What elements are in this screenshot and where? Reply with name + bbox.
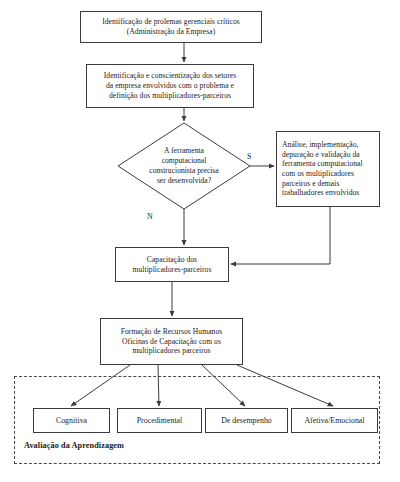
node-training-label: Capacitação dos multiplicadores-parceiro… xyxy=(133,255,212,274)
node-decision[interactable]: A ferramenta computacional construcionis… xyxy=(118,123,250,209)
edge-label-no: N xyxy=(147,212,153,221)
node-decision-label: A ferramenta computacional construcionis… xyxy=(130,146,238,185)
node-performance[interactable]: De desempenho xyxy=(205,408,288,433)
evaluation-group-caption: Avaliação da Aprendizagem xyxy=(24,441,124,450)
node-cognitive[interactable]: Cognitiva xyxy=(33,408,110,433)
node-affective-label: Afetiva/Emocional xyxy=(304,416,364,426)
edge-label-yes: S xyxy=(247,152,251,161)
node-tool-development-label: Análise, implementação, depuração e vali… xyxy=(282,140,363,198)
node-problem-identification-label: Identificação de prolemas gerenciais crí… xyxy=(102,17,240,36)
flowchart-canvas: Identificação de prolemas gerenciais crí… xyxy=(0,0,400,482)
node-tool-development[interactable]: Análise, implementação, depuração e vali… xyxy=(276,131,380,207)
connector-tool-to-training xyxy=(231,207,330,264)
node-problem-identification[interactable]: Identificação de prolemas gerenciais crí… xyxy=(80,11,262,43)
node-training[interactable]: Capacitação dos multiplicadores-parceiro… xyxy=(115,247,229,282)
node-human-resources-label: Formação de Recursos Humanos Oficinas de… xyxy=(121,327,223,356)
node-awareness[interactable]: Identificação e conscientização dos seto… xyxy=(86,64,254,108)
node-cognitive-label: Cognitiva xyxy=(56,416,87,426)
node-performance-label: De desempenho xyxy=(221,416,272,426)
node-human-resources[interactable]: Formação de Recursos Humanos Oficinas de… xyxy=(100,318,243,365)
node-procedural-label: Procedimental xyxy=(137,416,183,426)
node-awareness-label: Identificação e conscientização dos seto… xyxy=(104,71,236,100)
node-procedural[interactable]: Procedimental xyxy=(117,408,202,433)
node-affective[interactable]: Afetiva/Emocional xyxy=(291,408,378,433)
